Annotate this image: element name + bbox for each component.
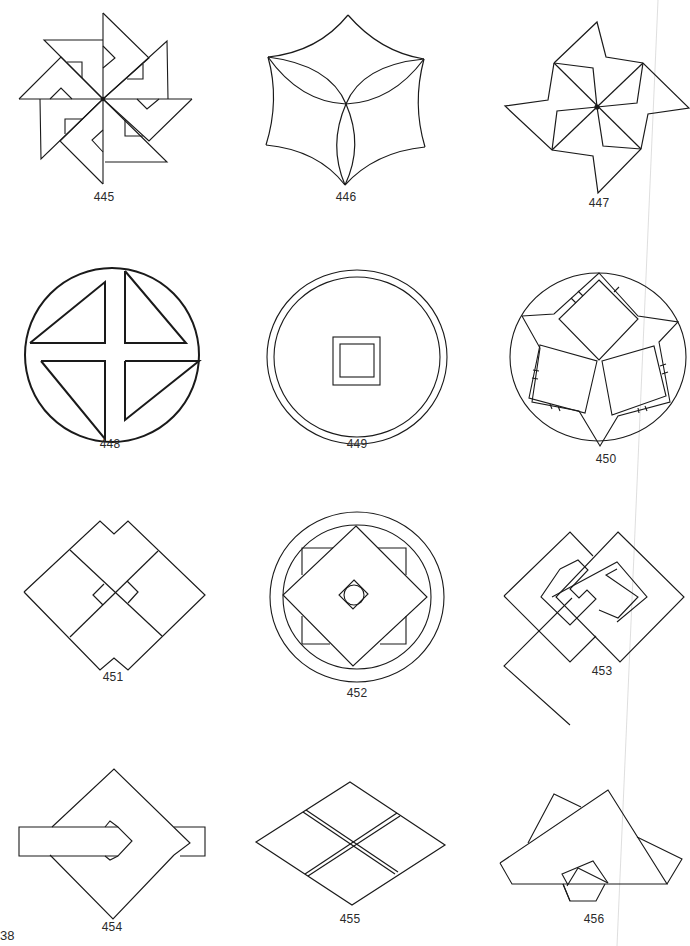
figure-455: 455 <box>230 740 460 946</box>
curved-hexagram-icon <box>230 0 460 210</box>
pinwheel-star-icon <box>460 0 690 215</box>
figure-caption: 455 <box>340 912 361 926</box>
figure-caption: 448 <box>100 437 121 451</box>
figure-456: 456 <box>460 740 690 946</box>
page-number: 38 <box>0 928 14 943</box>
figure-caption: 447 <box>589 196 610 210</box>
figure-454: 454 <box>0 740 230 946</box>
interlocked-diamonds-icon <box>460 470 690 705</box>
figure-449: 449 <box>230 230 460 455</box>
figure-caption: 452 <box>347 686 368 700</box>
figure-caption: 449 <box>347 437 368 451</box>
figure-caption: 456 <box>584 912 605 926</box>
figure-445: 445 <box>0 0 230 210</box>
diamond-arrow-icon <box>0 740 230 946</box>
nested-square-circle-icon <box>230 470 460 705</box>
figure-caption: 453 <box>592 664 613 678</box>
three-squares-circle-icon <box>460 230 690 455</box>
mountain-triangles-icon <box>460 740 690 946</box>
figure-450: 450 <box>460 230 690 455</box>
circle-cross-icon <box>0 230 230 455</box>
pinwheel-triangles-icon <box>0 0 230 210</box>
figure-452: 452 <box>230 470 460 705</box>
figure-447: 447 <box>460 0 690 215</box>
four-squares-diamond-icon <box>0 470 230 695</box>
figure-caption: 454 <box>102 920 123 934</box>
figure-446: 446 <box>230 0 460 210</box>
figure-448: 448 <box>0 230 230 455</box>
figure-caption: 446 <box>336 190 357 204</box>
figure-451: 451 <box>0 470 230 695</box>
figure-caption: 451 <box>103 670 124 684</box>
figure-caption: 450 <box>596 452 617 466</box>
figure-caption: 445 <box>94 190 115 204</box>
figure-453: 453 <box>460 470 690 705</box>
coin-square-icon <box>230 230 460 455</box>
